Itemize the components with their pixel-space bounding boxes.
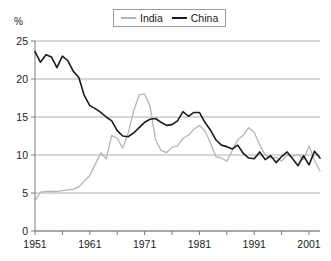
chart-container: India China % 0510152025 195119611971198… xyxy=(0,0,331,261)
data-series xyxy=(35,52,320,201)
x-tick-label: 1991 xyxy=(243,238,267,250)
y-tick-label: 15 xyxy=(16,111,28,123)
y-axis-ticks: 0510152025 xyxy=(16,35,35,237)
x-tick-label: 1961 xyxy=(78,238,102,250)
x-tick-label: 2001 xyxy=(297,238,321,250)
y-tick-label: 10 xyxy=(16,149,28,161)
grid-lines xyxy=(35,41,320,231)
y-tick-label: 20 xyxy=(16,73,28,85)
y-tick-label: 0 xyxy=(22,225,28,237)
series-line-china xyxy=(35,52,320,166)
x-axis: 195119611971198119912001 xyxy=(23,231,321,250)
series-line-india xyxy=(35,94,320,200)
x-tick-label: 1981 xyxy=(188,238,212,250)
x-tick-label: 1951 xyxy=(23,238,47,250)
y-tick-label: 25 xyxy=(16,35,28,47)
chart-plot-area: 0510152025 195119611971198119912001 xyxy=(0,0,331,261)
y-tick-label: 5 xyxy=(22,187,28,199)
x-tick-label: 1971 xyxy=(133,238,157,250)
